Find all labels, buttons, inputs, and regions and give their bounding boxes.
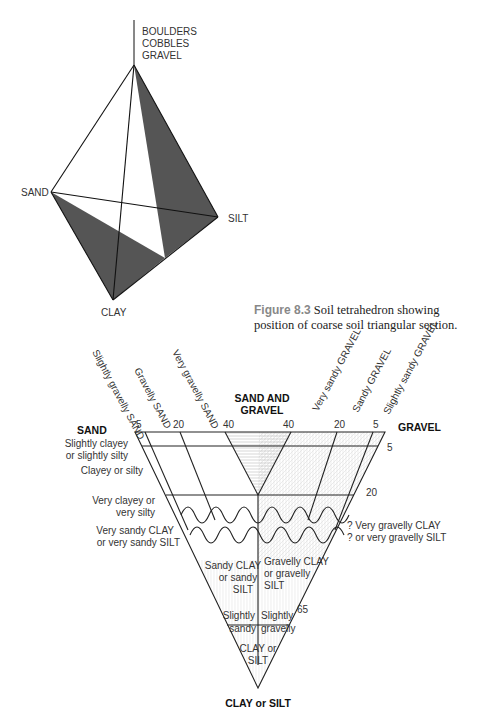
zone-sandy-clay-1: Sandy CLAY — [205, 560, 262, 571]
top-tick-20-right: 20 — [334, 419, 346, 430]
top-tick-5-left: 5 — [136, 419, 142, 430]
diagram-canvas: BOULDERS COBBLES GRAVEL SAND SILT CLAY — [0, 0, 477, 718]
zone-sandy-clay-2: or sandy — [219, 572, 257, 583]
soil-tetrahedron: BOULDERS COBBLES GRAVEL SAND SILT CLAY — [21, 20, 248, 318]
row-label-very-gravelly-clay-2: ? or very gravelly SILT — [347, 532, 446, 543]
corner-label-sand: SAND — [77, 424, 107, 436]
right-tick-20: 20 — [366, 487, 378, 498]
tetra-top-label-2: COBBLES — [142, 38, 190, 49]
top-tick-40-right: 40 — [283, 419, 295, 430]
corner-label-sand-and-gravel-2: GRAVEL — [241, 404, 285, 416]
figure-number: Figure 8.3 — [254, 303, 311, 317]
tetra-vertex-sand: SAND — [21, 187, 49, 198]
zone-slightly-gravelly-1: Slightly — [261, 610, 293, 621]
zone-clay-or-silt-2: SILT — [248, 655, 268, 666]
row-label-very-gravelly-clay-1: ? Very gravelly CLAY — [347, 520, 441, 531]
tetra-vertex-clay: CLAY — [101, 307, 127, 318]
zone-gravelly-clay-2: or gravelly — [264, 568, 310, 579]
zone-clay-or-silt-1: CLAY or — [240, 643, 278, 654]
tetra-top-label-3: GRAVEL — [142, 50, 182, 61]
tetra-vertex-silt: SILT — [228, 213, 248, 224]
corner-label-sand-and-gravel-1: SAND AND — [234, 392, 289, 404]
shaded-face-bottom — [51, 192, 165, 300]
zone-slightly-sandy-1: Slightly — [223, 610, 255, 621]
zone-gravelly-clay-1: Gravelly CLAY — [264, 556, 329, 567]
row-label-very-clayey-1: Very clayey or — [92, 495, 155, 506]
zone-sandy-clay-3: SILT — [233, 584, 253, 595]
zone-slightly-gravelly-2: gravelly — [261, 623, 295, 634]
top-tick-40-left: 40 — [223, 419, 235, 430]
right-tick-65: 65 — [297, 604, 309, 615]
zone-slightly-sandy-2: sandy — [229, 623, 256, 634]
top-tick-20-left: 20 — [173, 419, 185, 430]
row-label-clayey-or-silty: Clayey or silty — [81, 465, 143, 476]
tetra-top-label-1: BOULDERS — [142, 26, 197, 37]
zone-gravelly-clay-3: SILT — [264, 580, 284, 591]
figure-caption-8-3: Figure 8.3 Soil tetrahedron showing posi… — [254, 303, 474, 333]
row-label-slightly-clayey-1: Slightly clayey — [65, 438, 128, 449]
corner-label-clay-or-silt: CLAY or SILT — [225, 697, 291, 709]
row-label-slightly-clayey-2: or slightly silty — [66, 450, 128, 461]
shaded-face-right — [134, 65, 218, 258]
row-label-very-sandy-clay-1: Very sandy CLAY — [96, 525, 174, 536]
corner-label-gravel: GRAVEL — [398, 421, 442, 433]
top-tick-5-right: 5 — [373, 419, 379, 430]
coarse-soil-triangle: Slightly gravelly SAND Gravelly SAND Ver… — [65, 318, 447, 709]
row-label-very-clayey-2: very silty — [116, 507, 155, 518]
row-label-very-sandy-clay-2: or very sandy SILT — [97, 537, 180, 548]
right-tick-5: 5 — [387, 442, 393, 453]
